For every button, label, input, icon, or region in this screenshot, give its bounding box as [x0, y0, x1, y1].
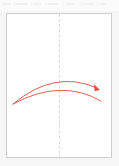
ruler-segment: [100, 3, 107, 5]
annotation-layer[interactable]: [7, 14, 113, 159]
ruler-segment: [33, 3, 41, 5]
upper-arc-path: [13, 81, 97, 104]
ruler-tick: [80, 2, 81, 5]
ruler-segment: [82, 3, 94, 5]
ruler-tick: [46, 2, 47, 5]
ruler-segment: [66, 3, 75, 5]
ruler-tick: [63, 2, 64, 5]
app-window: [0, 0, 119, 166]
lower-arc-path: [13, 90, 101, 104]
ruler-segment: [16, 3, 27, 5]
ruler-segment: [2, 3, 11, 5]
ruler-tick: [31, 2, 32, 5]
ruler-segment: [48, 3, 58, 5]
curved-double-arc-arrow[interactable]: [7, 14, 113, 159]
document-page[interactable]: [6, 13, 112, 158]
ruler-tick: [97, 2, 98, 5]
ruler-tick: [14, 2, 15, 5]
arrow-tip-icon: [93, 84, 101, 92]
canvas-workspace[interactable]: [0, 11, 119, 166]
ruler[interactable]: [0, 0, 119, 11]
